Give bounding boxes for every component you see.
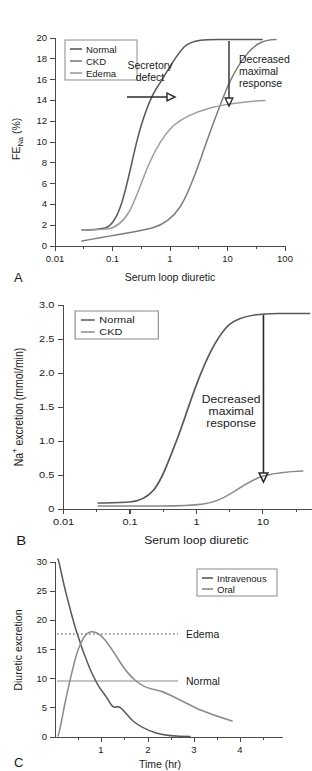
svg-text:1.0: 1.0 [39, 436, 55, 446]
svg-text:0.01: 0.01 [53, 517, 75, 527]
svg-text:6: 6 [42, 178, 47, 189]
panel-b-x-tick-labels: 0.01 0.1 1 10 100 [53, 517, 312, 527]
svg-text:25: 25 [36, 585, 47, 596]
svg-text:30: 30 [36, 556, 47, 567]
svg-text:4: 4 [42, 198, 47, 209]
svg-text:16: 16 [36, 74, 47, 85]
reference-label-edema: Edema [186, 628, 219, 640]
reference-label-normal: Normal [186, 675, 220, 687]
panel-b-y-tick-labels: 0 0.5 1.0 1.5 2.0 2.5 3.0 [39, 300, 55, 514]
panel-c-y-axis-title: Diuretic excretion [12, 609, 24, 690]
panel-a-chart: 0 2 4 6 8 10 12 14 16 18 20 0.01 0.1 [0, 0, 312, 290]
svg-text:2: 2 [145, 744, 150, 755]
svg-text:18: 18 [36, 53, 47, 64]
panel-b-y-ticks [58, 305, 64, 509]
svg-text:1: 1 [98, 744, 103, 755]
svg-text:10: 10 [257, 517, 270, 527]
panel-b-legend: Normal CKD [75, 311, 158, 339]
svg-text:10: 10 [36, 136, 47, 147]
svg-text:20: 20 [36, 614, 47, 625]
svg-text:0.01: 0.01 [46, 253, 65, 264]
svg-text:2.5: 2.5 [39, 334, 55, 344]
legend-item-normal-a: Normal [86, 44, 117, 55]
svg-text:3: 3 [191, 744, 196, 755]
panel-b: 0 0.5 1.0 1.5 2.0 2.5 3.0 0 [0, 283, 312, 553]
legend-item-normal-b: Normal [99, 315, 134, 325]
panel-a-x-tick-labels: 0.01 0.1 1 10 100 [46, 253, 293, 264]
svg-text:Decreased: Decreased [239, 53, 290, 65]
panel-b-y-axis-title: Na+ excretion (mmol/min) [11, 348, 25, 467]
panel-c-letter: C [14, 755, 23, 770]
panel-c-x-ticks [78, 737, 263, 742]
panel-a-y-tick-labels: 0 2 4 6 8 10 12 14 16 18 20 [36, 32, 47, 251]
svg-text:2: 2 [42, 219, 47, 230]
panel-a-y-axis-title: FENa (%) [10, 118, 25, 160]
svg-text:10: 10 [36, 673, 47, 684]
panel-c-x-tick-labels: 1 2 3 4 [98, 744, 242, 755]
svg-text:20: 20 [36, 32, 47, 43]
panel-c-y-tick-labels: 0 5 10 15 20 25 30 [36, 556, 47, 742]
svg-text:1: 1 [193, 517, 199, 527]
svg-text:Secretory: Secretory [128, 59, 174, 71]
legend-item-ckd-b: CKD [99, 327, 122, 337]
panel-a: 0 2 4 6 8 10 12 14 16 18 20 0.01 0.1 [0, 0, 312, 290]
svg-text:5: 5 [42, 702, 47, 713]
svg-text:Decreased: Decreased [202, 394, 261, 405]
svg-text:response: response [239, 77, 282, 89]
svg-text:maximal: maximal [209, 406, 254, 417]
legend-item-edema-a: Edema [86, 68, 117, 79]
reference-line-edema: Edema [57, 628, 219, 640]
panel-c-chart: 0 5 10 15 20 25 30 1 2 3 4 Di [0, 545, 312, 771]
svg-text:0: 0 [42, 240, 47, 251]
curve-intravenous-c [58, 559, 190, 737]
svg-text:12: 12 [36, 115, 47, 126]
panel-c-legend: Intravenous Oral [197, 569, 277, 596]
panel-b-chart: 0 0.5 1.0 1.5 2.0 2.5 3.0 0 [0, 283, 312, 553]
legend-item-ckd-a: CKD [86, 56, 106, 67]
panel-c-x-axis-title: Time (hr) [139, 758, 181, 770]
reference-line-normal: Normal [57, 675, 220, 687]
svg-text:FENa (%): FENa (%) [10, 118, 25, 160]
svg-text:Diuretic excretion: Diuretic excretion [12, 609, 24, 690]
svg-text:0: 0 [42, 731, 47, 742]
svg-text:15: 15 [36, 644, 47, 655]
panel-c-y-ticks [50, 562, 55, 737]
panel-a-x-ticks [55, 246, 285, 251]
svg-text:0: 0 [48, 504, 54, 514]
svg-text:maximal: maximal [239, 65, 278, 77]
svg-text:14: 14 [36, 94, 47, 105]
svg-text:defect: defect [136, 71, 165, 83]
panel-c: 0 5 10 15 20 25 30 1 2 3 4 Di [0, 545, 312, 771]
curve-edema-a [82, 101, 265, 231]
panel-a-x-axis-title: Serum loop diuretic [125, 271, 215, 283]
legend-item-oral: Oral [217, 584, 235, 595]
svg-text:response: response [206, 418, 256, 429]
svg-text:0.5: 0.5 [39, 470, 55, 480]
svg-text:2.0: 2.0 [39, 368, 55, 378]
legend-item-intravenous: Intravenous [217, 573, 267, 584]
svg-text:Na+ excretion (mmol/min): Na+ excretion (mmol/min) [11, 348, 25, 467]
panel-b-x-ticks [64, 509, 312, 514]
svg-text:0.1: 0.1 [122, 517, 138, 527]
panel-a-y-ticks [50, 38, 55, 246]
panel-a-legend: Normal CKD Edema [65, 40, 137, 80]
svg-text:3.0: 3.0 [39, 300, 55, 310]
svg-text:8: 8 [42, 157, 47, 168]
curve-normal-b [98, 314, 309, 504]
svg-text:10: 10 [222, 253, 233, 264]
curve-ckd-b [98, 471, 303, 506]
svg-text:1: 1 [167, 253, 172, 264]
annotation-decreased-max-response-b: Decreased maximal response [202, 315, 268, 482]
svg-text:100: 100 [277, 253, 293, 264]
svg-text:4: 4 [237, 744, 242, 755]
svg-text:1.5: 1.5 [39, 402, 55, 412]
svg-text:0.1: 0.1 [106, 253, 119, 264]
